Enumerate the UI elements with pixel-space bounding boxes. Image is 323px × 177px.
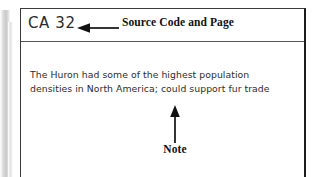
source-note-card: CA 32 Source Code and Page The Huron had…	[20, 8, 306, 177]
card-header: CA 32 Source Code and Page	[21, 9, 304, 42]
note-card-figure: CA 32 Source Code and Page The Huron had…	[0, 0, 323, 177]
note-body-line: The Huron had some of the highest popula…	[30, 68, 298, 82]
note-annotation-label: Note	[145, 143, 205, 155]
note-body-line: densities in North America; could suppor…	[30, 82, 298, 96]
page-edge-shadow-inner	[8, 22, 13, 177]
card-body: The Huron had some of the highest popula…	[21, 42, 304, 177]
arrow-left-icon	[77, 22, 119, 34]
note-body-text: The Huron had some of the highest popula…	[30, 68, 298, 96]
header-annotation-label: Source Code and Page	[122, 16, 234, 28]
source-code-label: CA 32	[28, 14, 76, 32]
arrow-up-icon	[168, 105, 182, 143]
